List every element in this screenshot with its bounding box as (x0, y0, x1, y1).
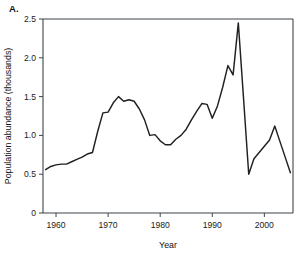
data-series-line (46, 23, 291, 174)
y-tick-label: 0.5 (24, 169, 36, 179)
y-tick-label: 1.5 (24, 92, 36, 102)
x-tick-label: 1960 (46, 220, 65, 230)
x-tick-label: 1970 (99, 220, 118, 230)
x-axis-ticks: 19601970198019902000 (46, 213, 274, 230)
x-tick-label: 1990 (203, 220, 222, 230)
y-axis-ticks: 00.51.01.52.02.5 (24, 14, 43, 218)
y-tick-label: 0 (31, 208, 36, 218)
y-tick-label: 2.0 (24, 53, 36, 63)
y-tick-label: 1.0 (24, 130, 36, 140)
x-tick-label: 1980 (151, 220, 170, 230)
y-axis-title: Population abundance (thousands) (3, 48, 13, 185)
line-chart: 00.51.01.52.02.5 19601970198019902000 Ye… (0, 0, 302, 253)
x-tick-label: 2000 (255, 220, 274, 230)
y-tick-label: 2.5 (24, 14, 36, 24)
axis-frame (43, 19, 293, 213)
x-axis-title: Year (159, 240, 177, 250)
figure-panel-a: A. 00.51.01.52.02.5 19601970198019902000… (0, 0, 302, 253)
